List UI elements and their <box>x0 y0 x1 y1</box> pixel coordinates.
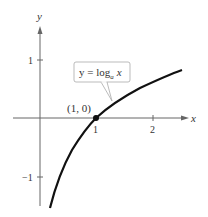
x-axis-label: x <box>190 112 196 124</box>
log-curve <box>50 70 182 208</box>
point-1-0 <box>93 115 99 121</box>
y-axis-label: y <box>36 10 42 22</box>
x-axis-arrow-icon <box>181 116 189 121</box>
x-tick-label-1: 1 <box>93 124 98 135</box>
y-tick-label-minus1: −1 <box>22 172 33 183</box>
callout-pointer <box>101 82 112 101</box>
x-tick-label-2: 2 <box>150 124 155 135</box>
y-tick-label-1: 1 <box>28 55 33 66</box>
point-label: (1, 0) <box>67 102 91 115</box>
y-axis-arrow-icon <box>38 26 43 34</box>
log-graph: x y 1 2 1 −1 (1, 0) y = logax <box>0 0 208 217</box>
